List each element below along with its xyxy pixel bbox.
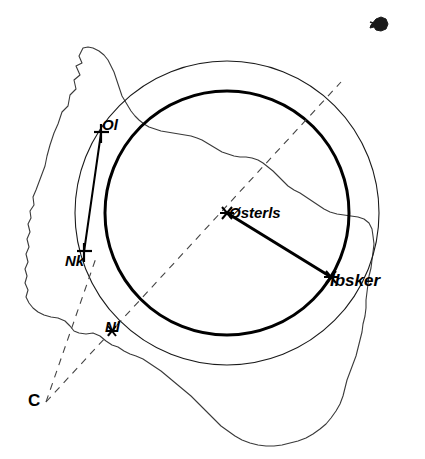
radius-line-center-ibsker xyxy=(227,213,331,277)
label-ol: Ol xyxy=(102,117,118,132)
label-nl: Nl xyxy=(105,319,120,334)
label-center-osterls: Østerls xyxy=(229,205,281,220)
chord-line-ol-nk xyxy=(84,133,101,252)
dashed-line-c-northeast xyxy=(46,82,341,402)
bornholm-coastline xyxy=(25,47,374,446)
dashed-line-c-nk xyxy=(46,258,96,402)
label-c: C xyxy=(28,392,40,409)
small-island-icon xyxy=(370,17,388,31)
map-canvas xyxy=(0,0,425,459)
label-ibsker: Ibsker xyxy=(330,272,380,289)
label-nk: Nk xyxy=(65,253,84,268)
map-figure: Ol Nk Nl Østerls Ibsker C xyxy=(0,0,425,459)
